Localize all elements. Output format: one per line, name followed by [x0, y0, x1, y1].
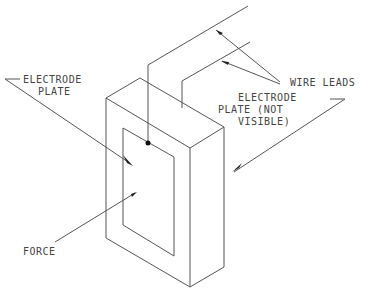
label-electrode-plate-line1: ELECTRODE [23, 74, 82, 86]
label-electrode-plate: ELECTRODE PLATE [23, 74, 82, 98]
diagram-canvas: ELECTRODE PLATE WIRE LEADS ELECTRODE PLA… [0, 0, 368, 300]
solder-dot [146, 141, 151, 146]
label-force: FORCE [23, 246, 56, 258]
label-electrode-plate-back-line3: VISIBLE) [218, 116, 297, 128]
label-electrode-plate-back-line1: ELECTRODE [218, 92, 297, 104]
front-electrode-plate [123, 128, 174, 256]
leader-wire-leads-2 [222, 61, 280, 84]
label-wire-leads: WIRE LEADS [290, 77, 355, 89]
arrowhead-force [131, 192, 137, 197]
arrowhead-wire-lead-2 [221, 61, 229, 65]
label-electrode-plate-not-visible: ELECTRODE PLATE (NOT VISIBLE) [218, 92, 297, 128]
label-electrode-plate-line2: PLATE [23, 86, 82, 98]
block-outline [106, 78, 224, 287]
label-electrode-plate-back-line2: PLATE (NOT [218, 104, 297, 116]
